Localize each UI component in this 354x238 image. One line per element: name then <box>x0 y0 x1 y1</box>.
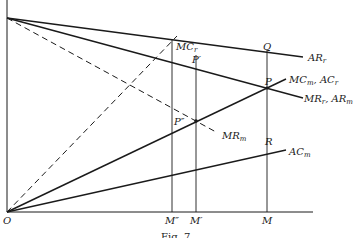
label-mc-m-ac-r: MCm, ACr <box>289 75 338 87</box>
label-mr-m: MRm <box>222 131 246 143</box>
label-ar-r: ARr <box>308 53 326 65</box>
point-p-double-prime-dot <box>194 119 198 123</box>
mr-m-dashed-line <box>7 18 216 132</box>
label-point-p: P <box>265 77 272 87</box>
label-point-p-double-prime: P″ <box>174 117 184 127</box>
label-origin: O <box>3 216 11 226</box>
mc-m-ac-r-line <box>7 79 286 212</box>
figure-caption: Fig. 7 <box>161 232 190 238</box>
label-mc-r: MCr <box>176 42 197 54</box>
label-ac-m: ACm <box>289 147 311 159</box>
label-point-r: R <box>265 137 273 147</box>
ar-r-line <box>7 18 303 57</box>
ac-m-line <box>7 150 286 212</box>
label-m-prime: M′ <box>190 216 203 226</box>
monopoly-cost-revenue-diagram: ARr MRr, ARm MRm MCr MCm, ACr ACm Q P R … <box>0 0 354 238</box>
mc-r-dashed-line <box>7 36 177 212</box>
label-point-p-prime: P′ <box>192 55 201 65</box>
label-m: M <box>262 216 272 226</box>
label-mr-r-ar-m: MRr, ARm <box>304 94 353 106</box>
label-point-q: Q <box>263 42 271 52</box>
mr-r-ar-m-line <box>7 18 303 98</box>
label-m-double-prime: M″ <box>165 216 179 226</box>
